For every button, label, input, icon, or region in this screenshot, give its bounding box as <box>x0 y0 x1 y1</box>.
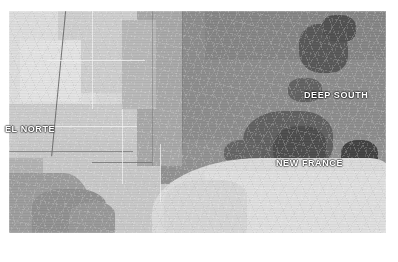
map-figure: EL NORTE DEEP SOUTH NEW FRANCE <box>0 0 398 262</box>
admin-boundary-line <box>92 11 93 109</box>
map-plate[interactable] <box>9 11 386 233</box>
admin-boundary-line <box>160 144 161 202</box>
state-boundary-line <box>152 11 153 166</box>
state-boundary-line <box>9 151 133 152</box>
admin-boundary-line <box>24 126 137 127</box>
admin-boundary-line <box>47 60 145 61</box>
state-boundary-line <box>182 11 183 149</box>
admin-boundary-line <box>122 109 123 184</box>
state-boundaries-layer <box>9 11 386 233</box>
state-boundary-line <box>92 162 152 163</box>
state-boundary-line <box>51 11 67 157</box>
